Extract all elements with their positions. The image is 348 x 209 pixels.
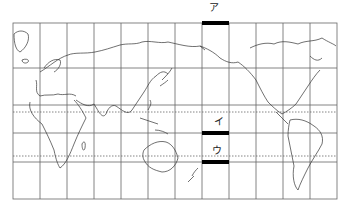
highlight-bar-a xyxy=(202,21,229,25)
highlight-bar-i xyxy=(202,131,229,135)
world-map xyxy=(0,0,348,209)
highlight-bars xyxy=(202,21,229,164)
bar-label-a: ア xyxy=(209,3,219,13)
bar-label-u: ウ xyxy=(212,146,222,156)
highlight-bar-u xyxy=(202,160,229,164)
graticule xyxy=(13,23,337,199)
bar-label-i: イ xyxy=(214,117,224,127)
